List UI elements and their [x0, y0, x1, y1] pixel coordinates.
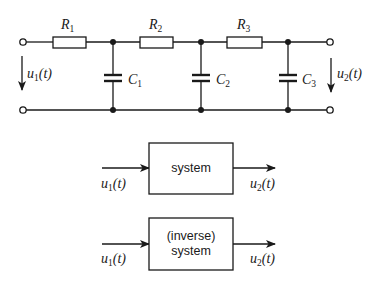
junction-dot [198, 39, 204, 45]
label-input-signal: u1(t) [101, 251, 126, 268]
label-c1: C1 [128, 72, 142, 89]
input-terminal-top [20, 39, 26, 45]
junction-dot [285, 107, 291, 113]
label-output-signal: u2(t) [250, 176, 275, 193]
resistor-r2 [140, 37, 173, 48]
resistor-r3 [227, 37, 262, 48]
inverse-system-block-label-line2: system [171, 244, 211, 258]
junction-dot [110, 107, 116, 113]
label-output-voltage: u2(t) [337, 66, 362, 83]
label-output-signal: u2(t) [250, 251, 275, 268]
label-input-signal: u1(t) [101, 176, 126, 193]
inverse-system-block-label-line1: (inverse) [167, 229, 216, 243]
output-terminal-top [327, 39, 333, 45]
label-r2: R2 [148, 17, 163, 34]
junction-dot [285, 39, 291, 45]
output-terminal-bottom [327, 107, 333, 113]
capacitor-c3 [279, 42, 297, 110]
junction-dot [198, 107, 204, 113]
label-input-voltage: u1(t) [27, 66, 52, 83]
input-terminal-bottom [20, 107, 26, 113]
capacitor-c2 [192, 42, 210, 110]
resistor-r1 [53, 37, 86, 48]
label-r1: R1 [60, 17, 75, 34]
label-c3: C3 [302, 72, 316, 89]
block-diagram-system: system u1(t) u2(t) [101, 143, 275, 194]
diagram-canvas: R1 R2 R3 C1 C2 C3 [0, 0, 380, 289]
label-c2: C2 [216, 72, 230, 89]
junction-dot [110, 39, 116, 45]
capacitor-c1 [104, 42, 122, 110]
system-block-label: system [171, 161, 211, 175]
label-r3: R3 [236, 17, 251, 34]
block-diagram-inverse-system: (inverse) system u1(t) u2(t) [101, 218, 275, 270]
rc-ladder-circuit: R1 R2 R3 C1 C2 C3 [20, 17, 363, 113]
